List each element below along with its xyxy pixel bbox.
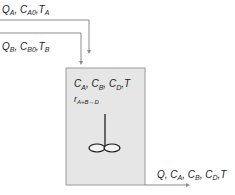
inlet-b-label: QB, CB0,TB <box>2 42 49 53</box>
outlet-label: Q, CA, CB, CD,T <box>157 170 226 181</box>
stirrer-blade-right <box>104 144 120 152</box>
inlet-a-label: QA, CA0,TA <box>2 5 49 16</box>
stirrer-blade-left <box>89 144 105 152</box>
outlet-arrowhead <box>186 183 190 187</box>
flow-diagram <box>0 0 235 195</box>
reactor-contents-label: CA, CB, CD,T <box>74 78 130 91</box>
inlet-b-arrowhead <box>79 61 83 65</box>
reaction-rate-label: rA+B→D <box>74 94 99 105</box>
inlet-a-arrowhead <box>87 50 91 54</box>
